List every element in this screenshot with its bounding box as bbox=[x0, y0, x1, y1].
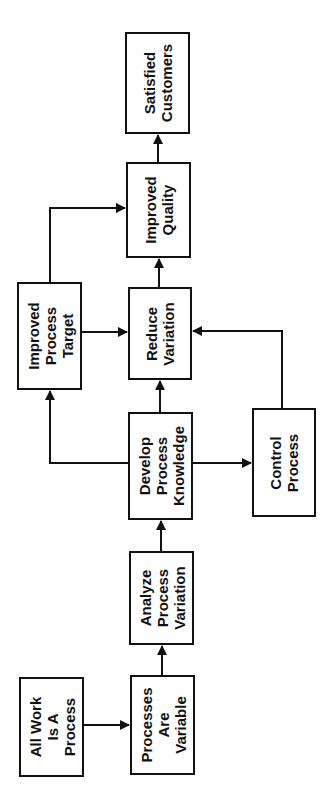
node-label: Analyze Process Variation bbox=[136, 566, 187, 629]
node-label: Satisfied Customers bbox=[141, 44, 175, 122]
node-control-process: Control Process bbox=[252, 408, 316, 517]
node-improved-quality: Improved Quality bbox=[126, 162, 191, 258]
node-satisfied-customers: Satisfied Customers bbox=[125, 32, 190, 134]
node-label: Improved Process Target bbox=[24, 302, 75, 370]
node-processes-are-variable: Processes Are Variable bbox=[130, 675, 195, 775]
node-label: Processes Are Variable bbox=[137, 687, 188, 762]
arrow-develop-to-target bbox=[50, 391, 128, 463]
node-label: Reduce Variation bbox=[143, 302, 177, 365]
node-improved-process-target: Improved Process Target bbox=[17, 282, 82, 390]
node-all-work-is-a-process: All Work Is A Process bbox=[19, 677, 84, 777]
node-analyze-process-variation: Analyze Process Variation bbox=[129, 551, 194, 645]
node-develop-process-knowledge: Develop Process Knowledge bbox=[128, 412, 193, 520]
arrow-target-to-quality bbox=[50, 208, 125, 282]
node-reduce-variation: Reduce Variation bbox=[128, 287, 192, 380]
node-label: Improved Quality bbox=[142, 176, 176, 244]
node-label: Control Process bbox=[267, 433, 301, 491]
arrow-control-to-reduce bbox=[193, 331, 282, 408]
flow-diagram: Satisfied Customers Improved Quality Imp… bbox=[0, 0, 334, 807]
node-label: All Work Is A Process bbox=[26, 697, 77, 758]
node-label: Develop Process Knowledge bbox=[135, 426, 186, 506]
